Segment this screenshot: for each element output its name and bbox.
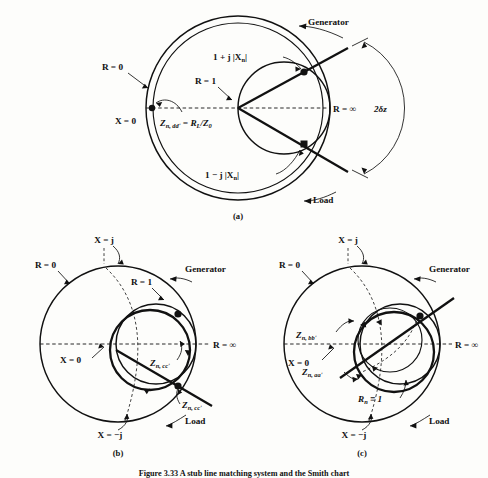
panel-c-xmj-arrowhead: [368, 414, 374, 419]
panel-b-xmj-arrowhead: [124, 414, 130, 419]
panel-b-r1-arrowhead: [158, 295, 164, 300]
panel-a-lower-radial: [238, 108, 348, 172]
panel-b-rinf-label: R = ∞: [213, 340, 236, 350]
panel-b-z-cc-upper-label: Zn, ccʹ: [149, 358, 170, 369]
panel-c-z-aa-arrowhead: [352, 377, 358, 383]
panel-a-upper-point-dot: [300, 68, 307, 75]
panel-a-lower-point-label: 1 − j |Xn|: [205, 170, 239, 181]
panel-a-generator-arrowhead: [299, 23, 306, 29]
panel-a-r1-arrowhead: [226, 95, 232, 100]
panel-c-load-arrow-line: [410, 415, 430, 426]
panel-b-load-arrow-line: [166, 415, 186, 426]
panel-b-generator-arrowhead: [170, 276, 177, 282]
panel-b-gamma-circle: [110, 310, 190, 390]
panel-b-z-cc-upper-arrowhead: [180, 341, 185, 347]
panel-a-lower-point-text: 1 − j |Xn|: [205, 170, 239, 181]
panel-a-r1-label: R = 1: [195, 76, 216, 86]
panel-b-tag: (b): [113, 448, 124, 458]
panel-a-generator-label: Generator: [308, 17, 349, 27]
panel-a-upper-point-label: 1 + j |Xn|: [213, 52, 247, 63]
panel-a-load-label: Load: [313, 195, 333, 205]
panel-b: R = 0 R = 1 R = ∞ X = 0 X = j X = −j Gen…: [35, 235, 237, 458]
panel-c-gamma-circle-inner: [358, 308, 422, 372]
panel-c-rn1-label: Rn ≡ 1: [357, 394, 382, 405]
figure-caption: Figure 3.33 A stub line matching system …: [139, 469, 350, 478]
panel-c-xmj-label: X = −j: [342, 430, 367, 440]
panel-b-outer-circle: [40, 266, 196, 422]
panel-c-z-aa-text: Zn, aaʹ: [301, 367, 323, 378]
panel-b-r0-arrowhead: [64, 279, 70, 284]
panel-c-x0-leader: [322, 348, 334, 360]
panel-c-z-bb-text: Zn, bbʹ: [295, 330, 317, 341]
panel-b-z-cc-lower-text: Zn, ccʹ: [181, 400, 202, 411]
panel-a-angle-label: 2δz: [373, 104, 387, 114]
panel-a-r0-label: R = 0: [102, 62, 123, 72]
smith-chart-figure: Generator Load R = 0 X = 0 R = 1 R = ∞ 2…: [0, 0, 488, 478]
panel-b-xj-leader: [113, 246, 120, 264]
panel-c-z-bb-label: Zn, bbʹ: [295, 330, 317, 341]
panel-c-z-bb-leader: [336, 321, 354, 332]
panel-a: Generator Load R = 0 X = 0 R = 1 R = ∞ 2…: [102, 16, 405, 221]
panel-b-x0-leader: [92, 347, 104, 358]
panel-b-xj-label: X = j: [94, 235, 114, 245]
panel-c-load-label: Load: [429, 416, 449, 426]
panel-c-rinf-label: R = ∞: [455, 340, 478, 350]
panel-c-generator-arrowhead: [414, 276, 421, 282]
panel-c-rn1-text: Rn ≡ 1: [357, 394, 382, 405]
panel-b-load-arrowhead: [166, 423, 172, 429]
panel-b-cc-point-dot: [174, 382, 181, 389]
panel-c-load-arrowhead: [410, 423, 416, 429]
panel-b-z-cc-lower-label: Zn, ccʹ: [181, 400, 202, 411]
panel-c-tag: (c): [357, 448, 367, 458]
panel-c-xj-label: X = j: [338, 235, 358, 245]
panel-a-lower-point-dot: [301, 141, 308, 148]
panel-c-point-dot: [416, 312, 423, 319]
panel-c-z-aa-label: Zn, aaʹ: [301, 367, 323, 378]
panel-a-upper-point-arrowhead: [295, 66, 301, 71]
panel-b-x0-label: X = 0: [60, 355, 81, 365]
figure-root: Generator Load R = 0 X = 0 R = 1 R = ∞ 2…: [0, 0, 488, 478]
panel-c-r0-arrowhead: [308, 279, 314, 284]
panel-a-x0-label: X = 0: [115, 116, 136, 126]
panel-c: R = 0 R = ∞ X = 0 X = j X = −j Generator…: [279, 235, 479, 458]
panel-a-load-arrowhead: [304, 198, 311, 204]
panel-c-generator-label: Generator: [429, 264, 470, 274]
panel-c-xj-leader: [357, 246, 364, 264]
panel-b-load-label: Load: [185, 416, 205, 426]
panel-a-tag: (a): [233, 211, 243, 221]
panel-b-radial-line: [116, 350, 212, 406]
panel-b-z-cc-upper-text: Zn, ccʹ: [149, 358, 170, 369]
panel-a-load-impedance-text: Zn, ddʹ = RL/Z0: [159, 118, 213, 129]
panel-b-xmj-label: X = −j: [98, 430, 123, 440]
panel-b-r1-label: R = 1: [131, 277, 152, 287]
panel-b-r0-label: R = 0: [35, 260, 56, 270]
panel-a-upper-point-text: 1 + j |Xn|: [213, 52, 247, 63]
panel-a-load-impedance-label: Zn, ddʹ = RL/Z0: [159, 118, 213, 129]
panel-c-arrow-upper-mid: [376, 319, 382, 325]
panel-c-r0-label: R = 0: [279, 260, 300, 270]
panel-b-generator-label: Generator: [185, 264, 226, 274]
panel-b-generator-point-dot: [174, 310, 181, 317]
panel-c-z-bb-arrowhead: [348, 318, 354, 324]
panel-a-upper-radial: [238, 48, 348, 108]
panel-a-load-point-dot: [149, 105, 155, 111]
panel-a-rinf-label: R = ∞: [333, 104, 356, 114]
